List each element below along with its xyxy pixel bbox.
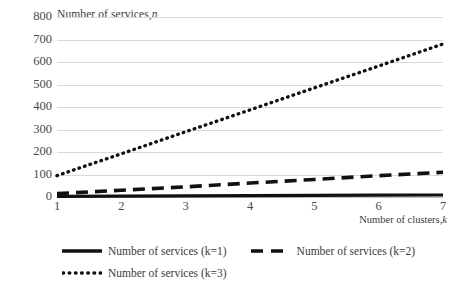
y-tick-label-700: 700 (6, 33, 52, 46)
x-axis-title-italic: k (442, 214, 447, 225)
legend-swatch-solid-icon (62, 246, 102, 256)
legend-row-1: Number of services (k=1) Number of servi… (62, 240, 442, 262)
legend-swatch-dotted-icon (62, 268, 102, 278)
legend-swatch-dashed-icon (251, 246, 291, 256)
x-tick-label-6: 6 (366, 200, 392, 213)
x-tick-label-4: 4 (237, 200, 263, 213)
x-axis-title: Number of clusters,k (359, 214, 447, 225)
legend-item-k3[interactable]: Number of services (k=3) (62, 267, 227, 279)
x-tick-label-5: 5 (301, 200, 327, 213)
series-layer (57, 17, 443, 197)
y-tick-label-800: 800 (6, 10, 52, 23)
series-k1-solid (57, 195, 443, 196)
legend-item-k1[interactable]: Number of services (k=1) (62, 245, 227, 257)
x-tick-label-7: 7 (430, 200, 456, 213)
y-tick-label-300: 300 (6, 123, 52, 136)
series-k3-dotted (57, 44, 443, 176)
plot-area (57, 17, 443, 197)
y-tick-label-500: 500 (6, 78, 52, 91)
chart-container: Number of services,n 0100200300400500600… (0, 0, 467, 291)
legend-item-k2[interactable]: Number of services (k=2) (251, 245, 416, 257)
y-tick-label-400: 400 (6, 100, 52, 113)
y-tick-label-600: 600 (6, 55, 52, 68)
x-tick-label-3: 3 (173, 200, 199, 213)
y-tick-label-100: 100 (6, 168, 52, 181)
x-tick-label-2: 2 (108, 200, 134, 213)
legend-label-k1: Number of services (k=1) (108, 245, 227, 257)
x-axis-title-text: Number of clusters, (359, 214, 442, 225)
x-tick-label-1: 1 (44, 200, 70, 213)
legend-row-2: Number of services (k=3) (62, 262, 442, 284)
legend-label-k3: Number of services (k=3) (108, 267, 227, 279)
y-tick-label-200: 200 (6, 145, 52, 158)
series-k2-dashed (57, 172, 443, 193)
legend-label-k2: Number of services (k=2) (297, 245, 416, 257)
chart-legend: Number of services (k=1) Number of servi… (62, 240, 442, 284)
y-axis-ticks: 0100200300400500600700800 (0, 17, 52, 197)
